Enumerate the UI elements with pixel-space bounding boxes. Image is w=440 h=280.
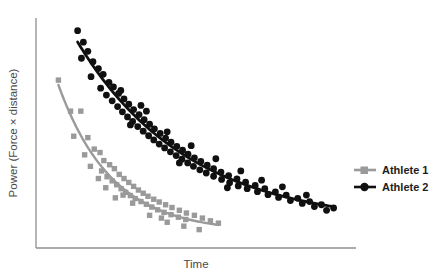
data-point xyxy=(131,184,136,189)
data-point xyxy=(258,177,265,184)
data-point xyxy=(88,73,95,80)
data-point xyxy=(163,202,168,207)
data-point xyxy=(197,227,202,232)
data-point xyxy=(138,199,143,204)
data-point xyxy=(99,168,104,173)
data-point xyxy=(78,108,83,113)
x-axis-title: Time xyxy=(183,258,208,270)
data-point xyxy=(169,205,174,210)
data-point xyxy=(176,214,181,219)
data-point xyxy=(204,162,211,169)
data-point xyxy=(136,187,141,192)
data-point xyxy=(168,139,175,146)
data-point xyxy=(275,194,282,201)
data-point xyxy=(90,58,97,65)
data-point xyxy=(100,71,107,78)
data-point xyxy=(56,77,61,82)
legend-label-athlete-1: Athlete 1 xyxy=(382,164,428,176)
data-point xyxy=(112,166,117,171)
data-point xyxy=(119,108,126,115)
data-point xyxy=(96,176,101,181)
data-point xyxy=(161,145,168,152)
data-point xyxy=(138,102,145,109)
data-point xyxy=(181,223,186,228)
data-point xyxy=(299,200,306,207)
data-point xyxy=(179,147,186,154)
data-point xyxy=(117,87,124,94)
data-point xyxy=(121,96,128,103)
data-point xyxy=(168,212,173,217)
data-point xyxy=(159,215,164,220)
data-point xyxy=(151,197,156,202)
data-point xyxy=(109,97,116,104)
data-point xyxy=(74,27,81,34)
data-point xyxy=(126,180,131,185)
data-point xyxy=(85,135,90,140)
data-point xyxy=(134,123,141,130)
data-point xyxy=(124,114,131,121)
data-point xyxy=(185,151,192,158)
data-point xyxy=(125,101,132,108)
data-point xyxy=(92,146,97,151)
legend-label-athlete-2: Athlete 2 xyxy=(382,181,428,193)
data-point xyxy=(294,195,301,202)
data-point xyxy=(71,134,76,139)
data-point xyxy=(203,170,210,177)
legend-circle-marker-icon xyxy=(360,183,368,191)
data-point xyxy=(176,160,183,167)
data-point xyxy=(173,152,180,159)
data-point xyxy=(318,201,325,208)
data-point xyxy=(265,191,272,198)
power-vs-time-scatter-chart: Time Power (Force × distance) Athlete 1 … xyxy=(0,0,440,280)
data-point xyxy=(113,195,118,200)
data-point xyxy=(162,135,169,142)
data-point xyxy=(78,55,85,62)
data-point xyxy=(192,213,197,218)
data-point xyxy=(165,220,170,225)
data-point xyxy=(235,183,242,190)
data-point xyxy=(157,130,164,137)
data-point xyxy=(150,137,157,144)
legend-square-marker-icon xyxy=(361,167,369,175)
data-point xyxy=(88,164,93,169)
data-point xyxy=(136,111,143,118)
data-point xyxy=(151,125,158,132)
data-point xyxy=(117,172,122,177)
data-point xyxy=(68,108,73,113)
data-point xyxy=(133,196,138,201)
data-point xyxy=(234,176,241,183)
data-point xyxy=(218,169,225,176)
data-point xyxy=(143,108,150,115)
data-point xyxy=(244,185,251,192)
data-point xyxy=(101,158,106,163)
data-point xyxy=(252,182,259,189)
data-point xyxy=(283,192,290,199)
data-point xyxy=(144,202,149,207)
data-point xyxy=(191,154,198,161)
data-point xyxy=(82,152,87,157)
data-point xyxy=(197,158,204,165)
data-point xyxy=(149,204,154,209)
data-point xyxy=(164,128,171,135)
data-point xyxy=(303,192,310,199)
data-point xyxy=(114,103,121,110)
data-point xyxy=(103,92,110,99)
data-point xyxy=(97,85,104,92)
data-point xyxy=(183,217,188,222)
data-point xyxy=(330,205,337,212)
data-point xyxy=(167,148,174,155)
data-point xyxy=(218,176,225,183)
data-point xyxy=(210,173,217,180)
data-point xyxy=(128,193,133,198)
data-point xyxy=(311,203,318,210)
data-point xyxy=(130,106,137,113)
data-point xyxy=(110,84,117,91)
y-axis-title: Power (Force × distance) xyxy=(7,68,19,197)
data-point xyxy=(84,48,91,55)
data-point xyxy=(157,199,162,204)
data-point xyxy=(155,207,160,212)
data-point xyxy=(261,185,268,192)
data-point xyxy=(161,210,166,215)
data-point xyxy=(323,207,330,214)
data-point xyxy=(208,218,213,223)
